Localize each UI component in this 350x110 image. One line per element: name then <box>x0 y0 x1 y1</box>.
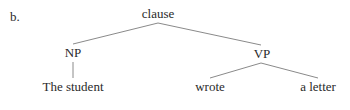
node-np: NP <box>65 46 82 60</box>
edge-vp-wrote <box>210 63 261 78</box>
leaf-wrote: wrote <box>195 80 225 94</box>
edge-clause-np <box>73 23 158 44</box>
edge-clause-vp <box>158 23 261 45</box>
edge-vp-a-letter <box>261 63 318 78</box>
leaf-the-student: The student <box>42 80 103 94</box>
node-vp: VP <box>254 47 271 61</box>
leaf-a-letter: a letter <box>300 80 336 94</box>
node-clause: clause <box>142 7 174 21</box>
